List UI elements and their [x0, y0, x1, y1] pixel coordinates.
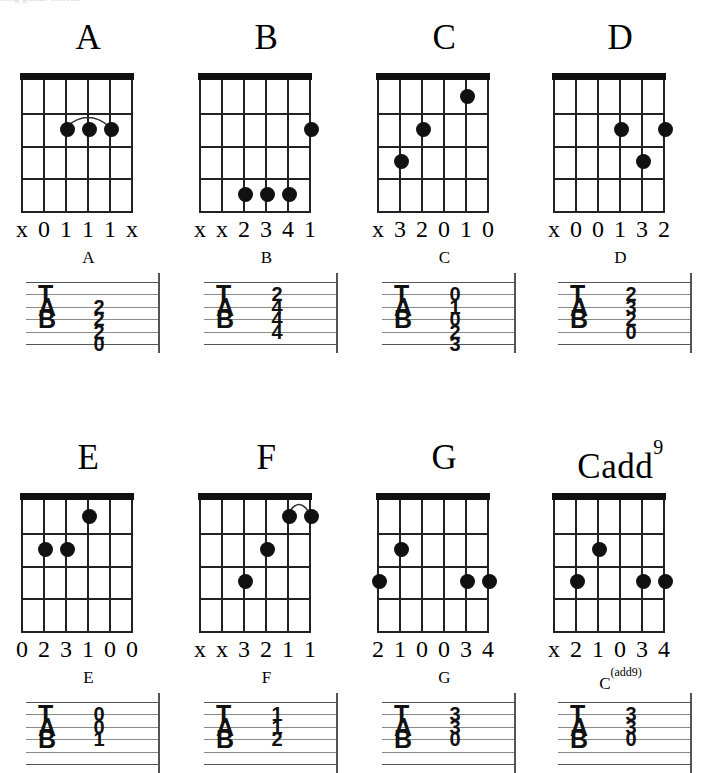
- finger-dot: [614, 122, 629, 137]
- string-line: [641, 500, 643, 631]
- string-line: [663, 500, 665, 631]
- chord-title: Cadd9: [532, 438, 709, 487]
- chord-title: G: [356, 438, 533, 478]
- tab-chord-label-root: B: [261, 248, 272, 267]
- string-line: [221, 80, 223, 211]
- tab-chord-label: B: [178, 248, 355, 268]
- fret-grid: [22, 500, 132, 631]
- string-marker: 1: [77, 636, 99, 662]
- fretboard-diagram: [22, 493, 132, 631]
- fret-line: [553, 533, 665, 535]
- finger-dot: [82, 122, 97, 137]
- string-marker: 0: [565, 216, 587, 242]
- chord-title: B: [178, 18, 355, 58]
- fret-grid: [22, 80, 132, 211]
- fret-line: [199, 146, 311, 148]
- tab-staff-line: [382, 764, 516, 765]
- finger-dot: [82, 509, 97, 524]
- string-marker: x: [543, 636, 565, 662]
- finger-dot: [658, 122, 673, 137]
- string-line: [597, 500, 599, 631]
- chord-title-root: A: [76, 18, 102, 57]
- string-marker: 3: [631, 216, 653, 242]
- finger-dot: [60, 542, 75, 557]
- string-marker: 2: [653, 216, 675, 242]
- string-line: [221, 500, 223, 631]
- string-line: [243, 500, 245, 631]
- fretboard-diagram: [554, 493, 664, 631]
- fret-line: [377, 598, 489, 600]
- tab-fret-number: 1: [90, 729, 108, 749]
- string-line: [21, 80, 23, 211]
- tab-staff-line: [558, 764, 692, 765]
- tab-staff-line: [204, 764, 338, 765]
- string-marker: 2: [367, 636, 389, 662]
- string-line: [43, 80, 45, 211]
- tab-fret-number: 4: [268, 322, 286, 342]
- finger-dot: [570, 574, 585, 589]
- chord-title-root: D: [608, 18, 634, 57]
- tab-end-barline: [158, 273, 160, 353]
- string-markers: 210034: [378, 636, 488, 662]
- finger-dot: [260, 187, 275, 202]
- string-markers: x00132: [554, 216, 664, 242]
- chord-title-root: E: [78, 438, 100, 477]
- tab-staff: TAB2444: [204, 273, 338, 353]
- string-marker: 1: [455, 216, 477, 242]
- string-marker: 0: [33, 216, 55, 242]
- finger-dot: [282, 509, 297, 524]
- fret-line: [553, 211, 665, 213]
- string-line: [377, 500, 379, 631]
- fret-grid: [200, 80, 310, 211]
- fretboard-diagram: [200, 73, 310, 211]
- string-marker: x: [121, 216, 143, 242]
- string-marker: 3: [389, 216, 411, 242]
- fret-grid: [200, 500, 310, 631]
- string-markers: x21034: [554, 636, 664, 662]
- finger-dot: [636, 574, 651, 589]
- tab-staff: TAB2320: [558, 273, 692, 353]
- string-line: [377, 80, 379, 211]
- fret-line: [553, 598, 665, 600]
- fret-line: [553, 178, 665, 180]
- string-markers: x32010: [378, 216, 488, 242]
- string-line: [487, 80, 489, 211]
- finger-dot: [304, 122, 319, 137]
- fret-line: [199, 533, 311, 535]
- fret-line: [199, 211, 311, 213]
- finger-dot: [238, 187, 253, 202]
- tab-chord-label-superscript: (add9): [611, 665, 642, 679]
- chord-title: E: [0, 438, 177, 478]
- tab-staff: TAB01023: [382, 273, 516, 353]
- tab-chord-label: D: [532, 248, 709, 268]
- finger-dot: [282, 187, 297, 202]
- finger-dot: [482, 574, 497, 589]
- string-marker: x: [211, 216, 233, 242]
- tab-staff-line: [558, 344, 692, 345]
- string-marker: 3: [233, 636, 255, 662]
- fret-line: [377, 566, 489, 568]
- chord-title-root: G: [432, 438, 458, 477]
- string-line: [109, 80, 111, 211]
- tab-chord-label: E: [0, 668, 177, 688]
- tab-end-barline: [690, 693, 692, 773]
- nut-bar: [20, 493, 134, 500]
- tab-staff: TAB112: [204, 693, 338, 773]
- tab-fret-number: 3: [446, 334, 464, 354]
- string-markers: 023100: [22, 636, 132, 662]
- fret-line: [553, 113, 665, 115]
- tab-clef-letter: B: [570, 307, 588, 332]
- string-marker: x: [211, 636, 233, 662]
- tab-chord-label-root: C: [599, 674, 610, 693]
- chord-title: D: [532, 18, 709, 58]
- string-marker: 1: [77, 216, 99, 242]
- tab-chord-label: F: [178, 668, 355, 688]
- string-marker: 3: [631, 636, 653, 662]
- string-marker: 0: [433, 636, 455, 662]
- string-marker: 0: [99, 636, 121, 662]
- tab-end-barline: [158, 693, 160, 773]
- string-line: [553, 80, 555, 211]
- tab-chord-label: C(add9): [532, 668, 709, 694]
- string-marker: 4: [277, 216, 299, 242]
- chord-title-superscript: 9: [653, 436, 664, 458]
